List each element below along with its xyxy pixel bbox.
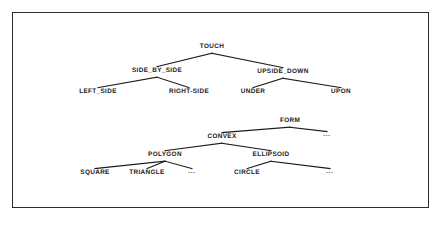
tree-node-upon: UPON: [331, 88, 351, 95]
tree-node-touch: TOUCH: [200, 43, 224, 50]
tree-node-ellipsoid: ELLIPSOID: [253, 151, 290, 158]
tree-node-ellipsis: ...: [326, 169, 334, 175]
figure-root: TOUCHSIDE_BY_SIDEUPSIDE_DOWNLEFT_SIDERIG…: [0, 0, 443, 228]
figure-border-frame: [12, 12, 429, 208]
tree-node-ellipsis: ...: [188, 169, 196, 175]
tree-node-square: SQUARE: [80, 169, 109, 176]
tree-node-upside-down: UPSIDE_DOWN: [257, 68, 308, 75]
tree-node-convex: CONVEX: [207, 133, 236, 140]
tree-node-circle: CIRCLE: [234, 169, 260, 176]
tree-node-polygon: POLYGON: [148, 151, 182, 158]
tree-node-triangle: TRIANGLE: [129, 169, 164, 176]
tree-node-side-by-side: SIDE_BY_SIDE: [132, 67, 182, 74]
tree-node-right-side: RIGHT-SIDE: [169, 88, 209, 95]
tree-node-left-side: LEFT_SIDE: [79, 88, 117, 95]
tree-node-form: FORM: [280, 117, 300, 124]
tree-node-ellipsis: ...: [323, 132, 331, 138]
tree-node-under: UNDER: [241, 88, 265, 95]
